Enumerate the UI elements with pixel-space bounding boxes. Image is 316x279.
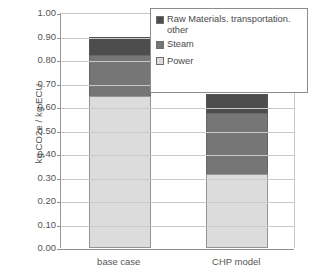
legend-item[interactable]: Power: [156, 56, 303, 67]
chart-legend: Raw Materials. transportation. otherStea…: [150, 8, 308, 93]
x-axis-category-label: CHP model: [178, 256, 296, 267]
legend-swatch-icon: [156, 16, 164, 24]
bar-segment[interactable]: [206, 113, 268, 174]
y-axis-tick-mark: [57, 249, 61, 250]
gridline: [61, 202, 294, 203]
y-axis-tick-label: 0.10: [18, 220, 56, 230]
y-axis-tick-label: 0.70: [18, 79, 56, 89]
y-axis-tick-label: 0.60: [18, 102, 56, 112]
y-axis-tick-label: 0.20: [18, 196, 56, 206]
y-axis-tick-labels: 1.000.900.800.700.600.500.400.300.200.10…: [18, 0, 56, 279]
gridline: [61, 155, 294, 156]
legend-swatch-icon: [156, 57, 164, 65]
y-axis-tick-mark: [57, 155, 61, 156]
y-axis-tick-label: 0.90: [18, 32, 56, 42]
legend-swatch-icon: [156, 41, 164, 49]
legend-label: Raw Materials. transportation. other: [167, 14, 303, 35]
x-axis-category-labels: base caseCHP model: [60, 256, 295, 274]
y-axis-tick-mark: [57, 14, 61, 15]
y-axis-tick-label: 0.00: [18, 243, 56, 253]
legend-label: Steam: [167, 39, 194, 50]
gridline: [61, 108, 294, 109]
stacked-bar-chart: kg CO2e / kg ECU 1.000.900.800.700.600.5…: [0, 0, 316, 279]
legend-label: Power: [167, 56, 193, 67]
y-axis-tick-label: 1.00: [18, 8, 56, 18]
gridline: [61, 179, 294, 180]
y-axis-tick-label: 0.80: [18, 55, 56, 65]
bar-base-case[interactable]: [89, 37, 151, 249]
y-axis-tick-label: 0.50: [18, 126, 56, 136]
x-axis-category-label: base case: [60, 256, 178, 267]
y-axis-tick-mark: [57, 226, 61, 227]
y-axis-tick-mark: [57, 202, 61, 203]
gridline: [61, 132, 294, 133]
y-axis-tick-mark: [57, 61, 61, 62]
y-axis-tick-mark: [57, 108, 61, 109]
y-axis-tick-mark: [57, 38, 61, 39]
bar-segment[interactable]: [89, 37, 151, 56]
legend-item[interactable]: Raw Materials. transportation. other: [156, 14, 303, 35]
y-axis-tick-mark: [57, 85, 61, 86]
y-axis-tick-label: 0.30: [18, 173, 56, 183]
bar-segment[interactable]: [206, 94, 268, 113]
y-axis-tick-label: 0.40: [18, 149, 56, 159]
y-axis-tick-mark: [57, 179, 61, 180]
gridline: [61, 226, 294, 227]
bar-segment[interactable]: [206, 174, 268, 248]
legend-item[interactable]: Steam: [156, 39, 303, 50]
gridline: [61, 249, 294, 250]
y-axis-tick-mark: [57, 132, 61, 133]
